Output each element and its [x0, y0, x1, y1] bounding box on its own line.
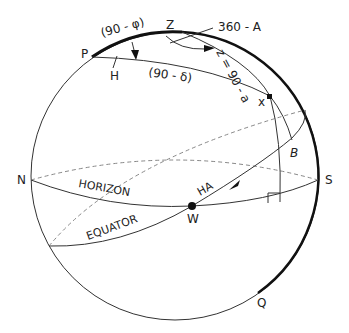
- label-s: S: [325, 173, 333, 187]
- label-azimuth: 360 - A: [218, 20, 262, 34]
- label-hour-angle: HA: [195, 179, 216, 198]
- label-q: Q: [257, 296, 266, 310]
- label-w: W: [187, 212, 199, 226]
- label-b: B: [290, 146, 298, 160]
- label-h: H: [110, 69, 119, 83]
- label-equator: EQUATOR: [85, 212, 140, 243]
- label-x: x: [258, 95, 265, 109]
- label-horizon: HORIZON: [77, 177, 131, 199]
- star-point-x: [267, 94, 272, 99]
- label-p: P: [81, 47, 88, 61]
- celestial-sphere-diagram: P Z N S W Q B x H (90 - φ) (90 - δ) 360 …: [0, 0, 349, 333]
- label-z: Z: [166, 18, 174, 32]
- azimuth-arrowhead: [204, 45, 215, 52]
- colatitude-arrowhead: [131, 50, 139, 60]
- horizon-back: [31, 160, 318, 180]
- west-point-dot: [188, 202, 196, 210]
- label-codeclination: (90 - δ): [148, 65, 193, 85]
- label-n: N: [17, 173, 26, 187]
